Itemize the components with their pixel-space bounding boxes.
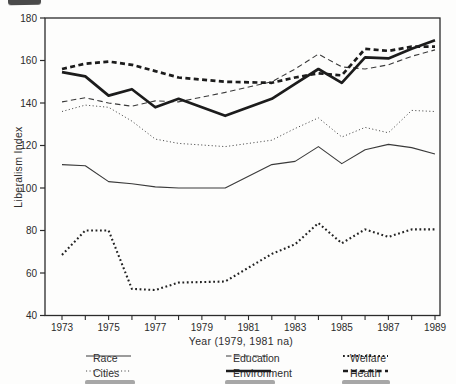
tick-label: 1973 xyxy=(51,322,74,333)
tick-label: 1983 xyxy=(284,322,307,333)
legend-item-environment: Environment xyxy=(225,366,292,380)
scan-artifact-bottom-1 xyxy=(85,380,135,384)
legend-swatch-solid-thin xyxy=(85,351,132,361)
tick-label: 180 xyxy=(20,13,37,24)
tick-label: 1981 xyxy=(237,322,260,333)
series-line-welfare xyxy=(62,223,435,290)
scanned-line-chart-page: 4060801001201401601801973197519771979198… xyxy=(0,0,456,384)
legend-item-race: Race xyxy=(85,351,118,365)
tick-label: 80 xyxy=(26,225,38,236)
legend-swatch-dotted-thin xyxy=(85,366,132,376)
tick-label: 40 xyxy=(26,310,38,321)
legend-item-health: Health xyxy=(342,366,380,380)
y-axis-title: Liberalism Index xyxy=(12,122,24,212)
tick-label: 1987 xyxy=(377,322,400,333)
legend-item-welfare: Welfare xyxy=(342,351,386,365)
tick-label: 160 xyxy=(20,55,37,66)
scan-artifact-bottom-3 xyxy=(342,380,390,384)
tick-label: 140 xyxy=(20,98,37,109)
tick-label: 1985 xyxy=(331,322,354,333)
legend-item-cities: Cities xyxy=(85,366,119,380)
legend-swatch-dashed-thin xyxy=(225,351,272,361)
series-line-health xyxy=(62,47,435,83)
x-axis-title: Year (1979, 1981 na) xyxy=(35,335,447,347)
tick-label: 1975 xyxy=(98,322,121,333)
series-line-cities xyxy=(62,105,435,147)
scan-artifact-bottom-2 xyxy=(225,380,275,384)
tick-label: 1989 xyxy=(424,322,447,333)
legend-item-education: Education xyxy=(225,351,280,365)
tick-label: 60 xyxy=(26,268,38,279)
tick-label: 1979 xyxy=(191,322,214,333)
series-line-race xyxy=(62,144,435,188)
tick-label: 1977 xyxy=(144,322,167,333)
legend-swatch-dashed-thick xyxy=(342,366,389,376)
legend-swatch-dotted-thick xyxy=(342,351,389,361)
chart-canvas: 4060801001201401601801973197519771979198… xyxy=(0,0,456,384)
legend-swatch-solid-thick xyxy=(225,366,272,376)
